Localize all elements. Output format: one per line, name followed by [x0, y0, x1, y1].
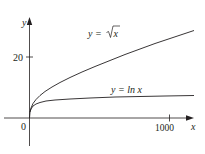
- sqrt-label-var: x: [113, 28, 119, 39]
- x-axis: [4, 115, 194, 120]
- y-axis: [27, 17, 32, 146]
- y-axis-arrow-icon: [27, 17, 32, 25]
- sqrt-label-prefix: y =: [87, 28, 102, 39]
- sqrt-curve: [30, 31, 195, 119]
- ln-curve: [30, 96, 194, 113]
- chart-plot: y x 20 0 1000 y = x y = ln x: [0, 0, 205, 154]
- y-axis-label: y: [21, 17, 27, 28]
- ln-annotation: y = ln x: [110, 84, 142, 95]
- origin-label: 0: [21, 121, 26, 132]
- y-tick-label-20: 20: [13, 52, 23, 63]
- x-tick-label-1000: 1000: [155, 123, 174, 133]
- sqrt-annotation: y = x: [87, 26, 120, 39]
- x-axis-arrow-icon: [186, 115, 194, 120]
- x-axis-label: x: [190, 121, 196, 132]
